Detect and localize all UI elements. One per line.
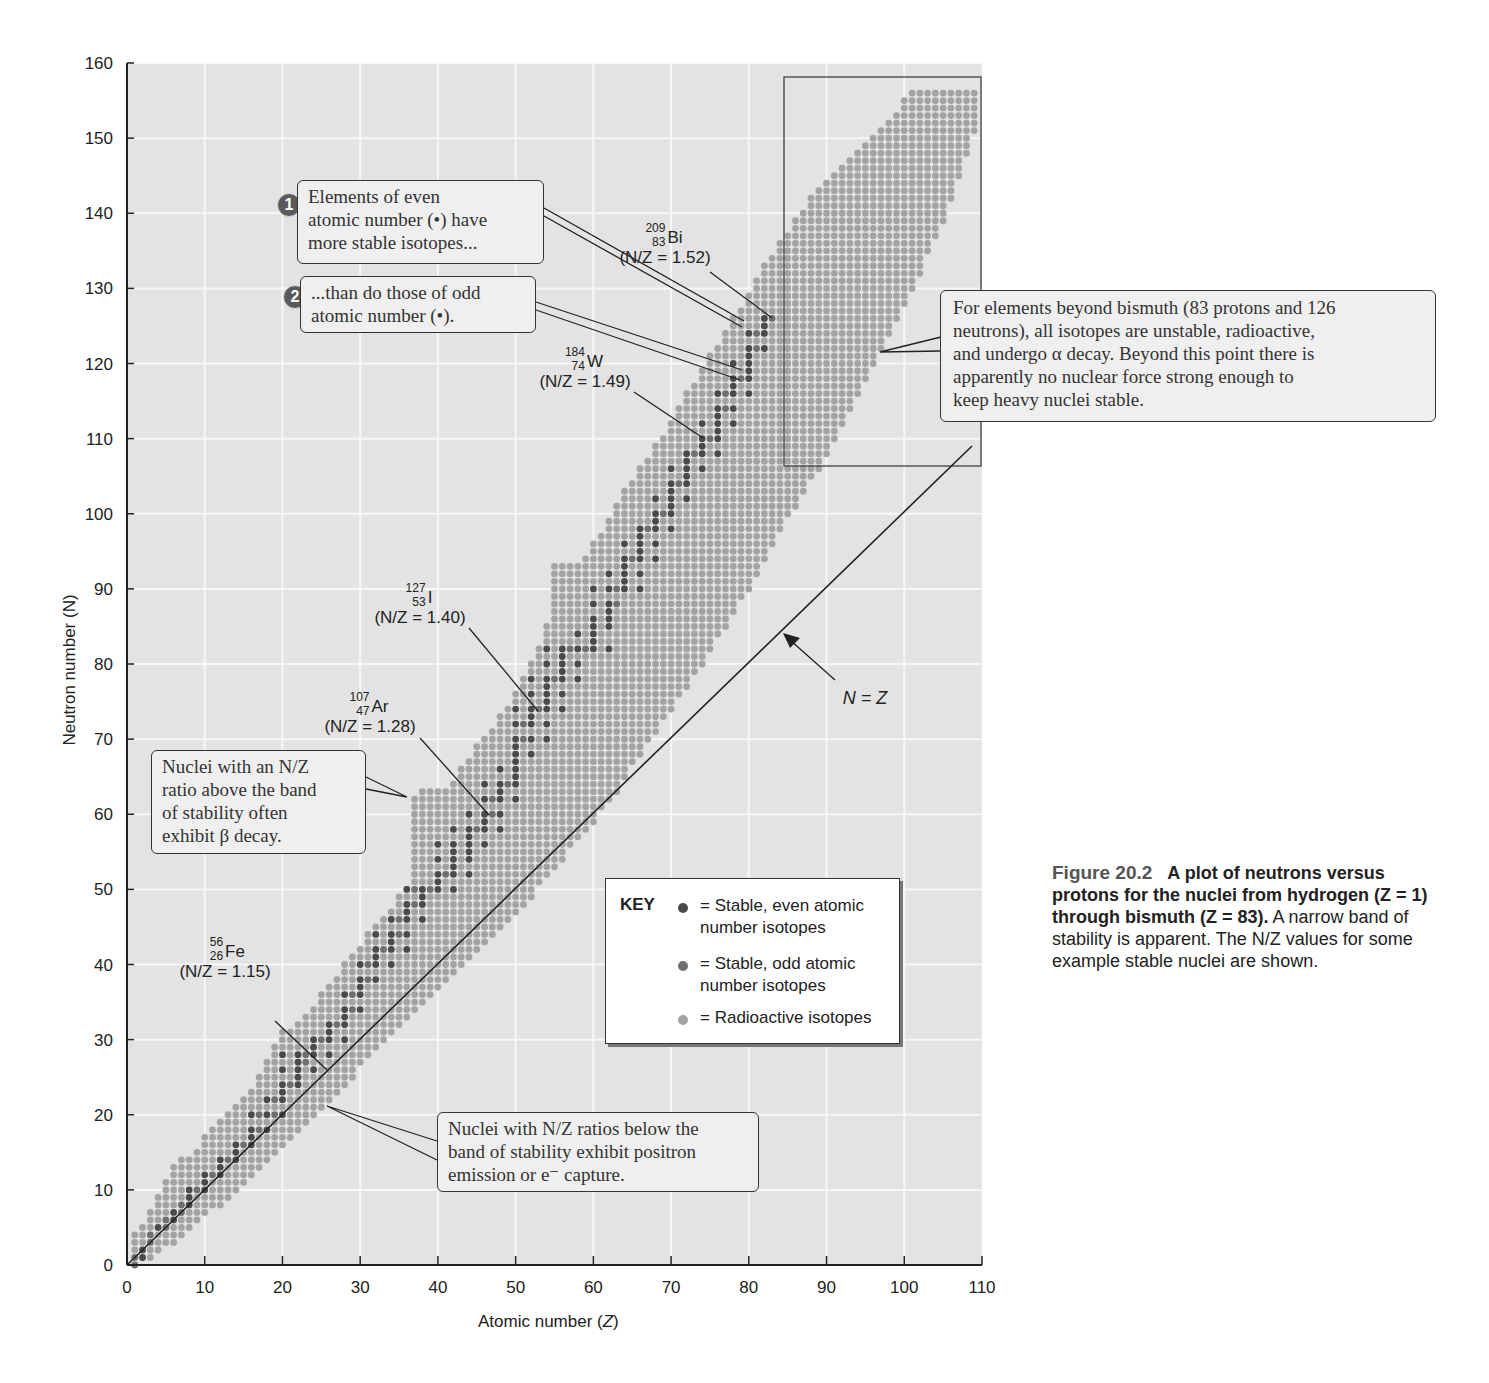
svg-text:100: 100 — [890, 1278, 918, 1297]
svg-text:30: 30 — [94, 1031, 113, 1050]
callout-even-elements: Elements of even atomic number (•) have … — [297, 180, 544, 264]
svg-text:90: 90 — [817, 1278, 836, 1297]
svg-text:70: 70 — [94, 730, 113, 749]
legend-item-stable-odd: = Stable, odd atomicnumber isotopes — [678, 955, 694, 975]
nz-ratio: (N/Z = 1.28) — [315, 717, 425, 737]
medium-dot-icon — [678, 961, 688, 971]
svg-text:20: 20 — [94, 1106, 113, 1125]
svg-text:10: 10 — [195, 1278, 214, 1297]
callout-text: ratio above the band — [162, 778, 355, 801]
light-dot-icon — [678, 1015, 688, 1025]
callout-text: For elements beyond bismuth (83 protons … — [953, 296, 1423, 319]
mass-number: 127 — [406, 582, 426, 594]
svg-text:130: 130 — [85, 279, 113, 298]
legend-label: number isotopes — [700, 975, 900, 997]
label-iron: 5626Fe (N/Z = 1.15) — [170, 942, 280, 982]
svg-text:30: 30 — [351, 1278, 370, 1297]
callout-text: band of stability exhibit positron — [448, 1140, 748, 1163]
legend-item-stable-even: = Stable, even atomicnumber isotopes — [678, 897, 694, 917]
svg-text:10: 10 — [94, 1181, 113, 1200]
legend: KEY = Stable, even atomicnumber isotopes… — [605, 878, 900, 1044]
callout-text: Nuclei with N/Z ratios below the — [448, 1117, 748, 1140]
label-bismuth: 20983Bi (N/Z = 1.52) — [610, 228, 720, 268]
svg-text:0: 0 — [122, 1278, 131, 1297]
callout-beta-decay: Nuclei with an N/Z ratio above the band … — [151, 750, 366, 854]
svg-text:40: 40 — [94, 956, 113, 975]
mass-number: 209 — [645, 222, 665, 234]
callout-text: emission or e⁻ capture. — [448, 1163, 748, 1186]
atomic-number: 83 — [652, 236, 665, 248]
nz-ratio: (N/Z = 1.15) — [170, 962, 280, 982]
atomic-number: 26 — [210, 950, 223, 962]
figure-caption: Figure 20.2 A plot of neutrons versus pr… — [1052, 862, 1452, 972]
callout-text: and undergo α decay. Beyond this point t… — [953, 342, 1423, 365]
legend-label: = Stable, odd atomic — [700, 953, 900, 975]
legend-item-radioactive: = Radioactive isotopes — [678, 1009, 694, 1029]
svg-text:20: 20 — [273, 1278, 292, 1297]
callout-text: Nuclei with an N/Z — [162, 755, 355, 778]
mass-number: 56 — [210, 936, 223, 948]
callout-positron-emission: Nuclei with N/Z ratios below the band of… — [437, 1112, 759, 1192]
svg-text:110: 110 — [86, 430, 113, 449]
mass-number: 184 — [565, 346, 585, 358]
callout-text: neutrons), all isotopes are unstable, ra… — [953, 319, 1423, 342]
atomic-number: 53 — [412, 596, 425, 608]
svg-text:60: 60 — [584, 1278, 603, 1297]
x-axis-variable: Z — [603, 1312, 613, 1331]
label-iodine: 12753I (N/Z = 1.40) — [365, 588, 475, 628]
mass-number: 107 — [349, 691, 369, 703]
callout-beyond-bismuth: For elements beyond bismuth (83 protons … — [940, 290, 1436, 422]
svg-text:80: 80 — [739, 1278, 758, 1297]
svg-text:100: 100 — [85, 505, 113, 524]
figure-number: Figure 20.2 — [1052, 862, 1152, 883]
legend-label: number isotopes — [700, 917, 900, 939]
atomic-number: 47 — [356, 705, 369, 717]
svg-text:120: 120 — [85, 355, 113, 374]
callout-text: ...than do those of odd — [311, 281, 525, 304]
callout-text: more stable isotopes... — [308, 231, 533, 254]
label-n-equals-z: N = Z — [830, 688, 900, 708]
dark-dot-icon — [678, 903, 688, 913]
callout-text: of stability often — [162, 801, 355, 824]
element-symbol: I — [428, 588, 433, 607]
legend-label: = Stable, even atomic — [700, 895, 900, 917]
svg-text:150: 150 — [85, 129, 113, 148]
nz-ratio: (N/Z = 1.49) — [530, 372, 640, 392]
callout-text: exhibit β decay. — [162, 824, 355, 847]
svg-text:90: 90 — [94, 580, 113, 599]
element-symbol: Fe — [225, 942, 245, 961]
callout-text: atomic number (•) have — [308, 208, 533, 231]
label-argon: 10747Ar (N/Z = 1.28) — [315, 697, 425, 737]
svg-text:60: 60 — [94, 805, 113, 824]
atomic-number: 74 — [572, 360, 585, 372]
nz-ratio: (N/Z = 1.52) — [610, 248, 720, 268]
nz-ratio: (N/Z = 1.40) — [365, 608, 475, 628]
callout-text: atomic number (•). — [311, 304, 525, 327]
svg-text:110: 110 — [968, 1278, 995, 1297]
element-symbol: W — [587, 352, 603, 371]
x-axis-label: Atomic number (Z) — [478, 1312, 619, 1332]
label-tungsten: 18474W (N/Z = 1.49) — [530, 352, 640, 392]
svg-text:80: 80 — [94, 655, 113, 674]
legend-title: KEY — [620, 895, 655, 915]
legend-label: = Radioactive isotopes — [700, 1007, 900, 1029]
svg-text:0: 0 — [104, 1256, 113, 1275]
y-axis-label: Neutron number (N) — [60, 590, 80, 750]
x-axis-label-text: Atomic number ( — [478, 1312, 603, 1331]
svg-text:50: 50 — [506, 1278, 525, 1297]
element-symbol: Ar — [372, 697, 389, 716]
callout-text: apparently no nuclear force strong enoug… — [953, 365, 1423, 388]
element-symbol: Bi — [667, 228, 682, 247]
callout-text: Elements of even — [308, 185, 533, 208]
svg-text:140: 140 — [85, 204, 113, 223]
callout-text: keep heavy nuclei stable. — [953, 388, 1423, 411]
svg-text:160: 160 — [85, 54, 113, 73]
callout-odd-elements: ...than do those of odd atomic number (•… — [300, 276, 536, 333]
svg-text:50: 50 — [94, 880, 113, 899]
svg-text:40: 40 — [428, 1278, 447, 1297]
svg-text:70: 70 — [662, 1278, 681, 1297]
